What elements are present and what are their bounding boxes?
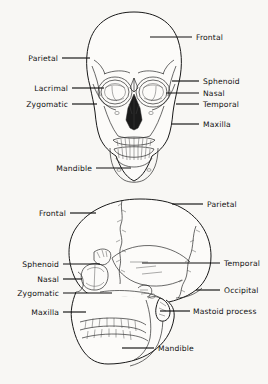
label-mandible-lateral: Mandible xyxy=(158,344,194,353)
skull-anatomy-figure: Frontal Parietal Sphenoid Lacrimal Nasal… xyxy=(0,0,268,384)
label-sphenoid-lateral: Sphenoid xyxy=(22,260,59,269)
label-nasal-lateral: Nasal xyxy=(37,275,59,284)
label-sphenoid-anterior: Sphenoid xyxy=(203,77,240,86)
label-parietal-lateral: Parietal xyxy=(207,200,237,209)
label-frontal-anterior: Frontal xyxy=(196,33,223,42)
label-maxilla-lateral: Maxilla xyxy=(31,308,59,317)
label-frontal-lateral: Frontal xyxy=(39,209,66,218)
lateral-skull-drawing xyxy=(69,199,211,366)
label-zygomatic-anterior: Zygomatic xyxy=(26,100,68,109)
label-lacrimal-anterior: Lacrimal xyxy=(34,84,68,93)
label-maxilla-anterior: Maxilla xyxy=(203,120,231,129)
label-nasal-anterior: Nasal xyxy=(203,89,225,98)
label-zygomatic-lateral: Zygomatic xyxy=(17,289,59,298)
label-occipital-lateral: Occipital xyxy=(224,286,258,295)
label-temporal-anterior: Temporal xyxy=(202,100,239,109)
label-temporal-lateral: Temporal xyxy=(223,259,260,268)
label-mandible-anterior: Mandible xyxy=(56,164,92,173)
label-parietal-anterior: Parietal xyxy=(28,54,58,63)
label-mastoid-process-lateral: Mastoid process xyxy=(193,307,257,316)
